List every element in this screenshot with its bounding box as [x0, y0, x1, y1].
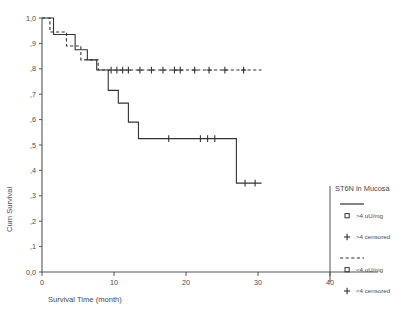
legend-entry-label: >4 censored [356, 233, 391, 240]
y-tick-label: ,5 [30, 141, 36, 150]
y-tick-label: ,6 [30, 115, 36, 124]
y-tick-label: ,9 [30, 39, 36, 48]
cropped-header-text [42, 0, 192, 7]
legend-marker-square [345, 268, 349, 272]
legend-marker-square [345, 214, 349, 218]
y-tick-label: ,2 [30, 217, 36, 226]
y-tick-label: 1,0 [26, 14, 36, 23]
x-tick-label: 0 [40, 278, 44, 287]
y-tick-label: ,3 [30, 191, 36, 200]
legend-entry-label: <4 censored [356, 287, 391, 294]
legend-entry-label: >4 uU/mg [356, 212, 384, 219]
y-tick-label: ,7 [30, 90, 36, 99]
legend-title: ST6N in Mucosa [335, 184, 391, 193]
legend-entry-label: <4 uU/mg [356, 266, 384, 273]
series-line-0 [42, 18, 262, 183]
survival-chart-figure: 0,0,1,2,3,4,5,6,7,8,91,0010203040Surviva… [0, 0, 407, 311]
y-tick-label: ,1 [30, 242, 36, 251]
y-tick-label: 0,0 [26, 268, 36, 277]
x-tick-label: 20 [182, 278, 190, 287]
x-tick-label: 10 [110, 278, 118, 287]
x-axis-title: Survival Time (month) [48, 295, 122, 304]
y-tick-label: ,8 [30, 64, 36, 73]
chart-svg: 0,0,1,2,3,4,5,6,7,8,91,0010203040Surviva… [0, 0, 407, 311]
y-axis-title: Cum Survival [5, 187, 14, 232]
y-tick-label: ,4 [30, 166, 36, 175]
x-tick-label: 30 [254, 278, 262, 287]
